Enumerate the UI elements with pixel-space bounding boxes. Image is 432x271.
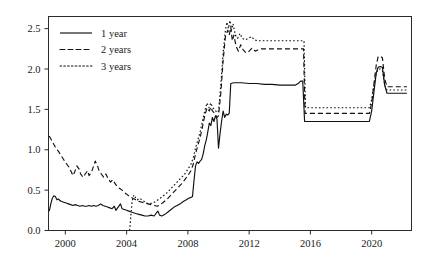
x-tick-label: 2004: [116, 238, 138, 249]
y-tick-label: 1.5: [27, 104, 40, 115]
x-tick-label: 2012: [239, 238, 260, 249]
chart-figure: 0.00.51.01.52.02.5 200020042008201220162…: [0, 0, 432, 271]
y-axis-ticks: 0.00.51.01.52.02.5: [27, 23, 48, 236]
y-tick-label: 2.0: [27, 64, 40, 75]
line-chart: 0.00.51.01.52.02.5 200020042008201220162…: [0, 0, 432, 271]
y-tick-label: 1.0: [27, 144, 40, 155]
x-tick-label: 2000: [55, 238, 76, 249]
y-tick-label: 0.0: [27, 225, 40, 236]
legend-label-3-years: 3 years: [101, 61, 131, 72]
x-tick-label: 2016: [300, 238, 321, 249]
chart-legend: 1 year2 years3 years: [60, 28, 131, 72]
y-tick-label: 2.5: [27, 23, 40, 34]
series-line-3-years: [130, 21, 407, 231]
x-axis-ticks: 200020042008201220162020: [55, 231, 382, 249]
series-line-1-year: [49, 67, 407, 216]
x-tick-label: 2008: [177, 238, 198, 249]
legend-label-1-year: 1 year: [101, 28, 127, 39]
x-tick-label: 2020: [361, 238, 382, 249]
legend-label-2-years: 2 years: [101, 44, 131, 55]
y-tick-label: 0.5: [27, 185, 40, 196]
